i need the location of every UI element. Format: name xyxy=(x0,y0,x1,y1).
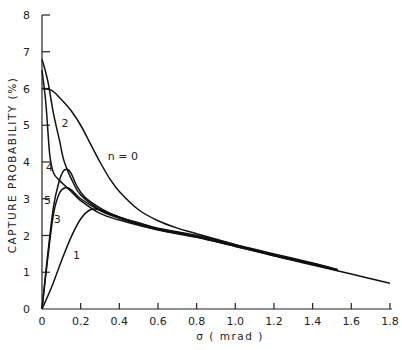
curve-label: 3 xyxy=(54,213,61,226)
curves xyxy=(42,59,390,309)
curve-label: 1 xyxy=(73,249,80,262)
x-tick-label: 0.2 xyxy=(72,315,90,328)
x-tick-label: 0 xyxy=(39,315,46,328)
y-tick-label: 5 xyxy=(23,119,30,132)
x-tick-label: 1.6 xyxy=(343,315,361,328)
x-tick-label: 1.0 xyxy=(227,315,245,328)
curve-1 xyxy=(42,209,338,309)
curve-5 xyxy=(42,187,338,309)
x-tick-label: 1.4 xyxy=(304,315,322,328)
y-tick-label: 3 xyxy=(23,193,30,206)
capture-probability-chart: 00.20.40.60.81.01.21.41.61.8012345678 n … xyxy=(0,0,402,350)
y-tick-label: 2 xyxy=(23,230,30,243)
y-tick-label: 4 xyxy=(23,156,30,169)
y-tick-label: 0 xyxy=(23,303,30,316)
y-axis-title: CAPTURE PROBABILITY (%) xyxy=(6,77,18,254)
x-tick-label: 0.8 xyxy=(188,315,206,328)
curve-label: 4 xyxy=(46,161,53,174)
curve-labels: n = 024351 xyxy=(44,117,138,262)
y-tick-label: 6 xyxy=(23,83,30,96)
curve-2 xyxy=(42,59,338,270)
x-tick-label: 0.6 xyxy=(149,315,167,328)
curve-label: 5 xyxy=(44,194,51,207)
x-axis-title: σ ( mrad ) xyxy=(196,330,264,342)
curve-3 xyxy=(42,169,338,309)
curve-4 xyxy=(42,70,338,270)
x-tick-label: 1.8 xyxy=(381,315,399,328)
curve-label: 2 xyxy=(61,117,68,130)
curve-n0 xyxy=(42,89,390,284)
curve-label: n = 0 xyxy=(108,150,138,163)
x-tick-label: 1.2 xyxy=(265,315,283,328)
axes: 00.20.40.60.81.01.21.41.61.8012345678 xyxy=(23,9,399,328)
x-tick-label: 0.4 xyxy=(111,315,129,328)
y-tick-label: 8 xyxy=(23,9,30,22)
y-tick-label: 1 xyxy=(23,266,30,279)
y-tick-label: 7 xyxy=(23,46,30,59)
